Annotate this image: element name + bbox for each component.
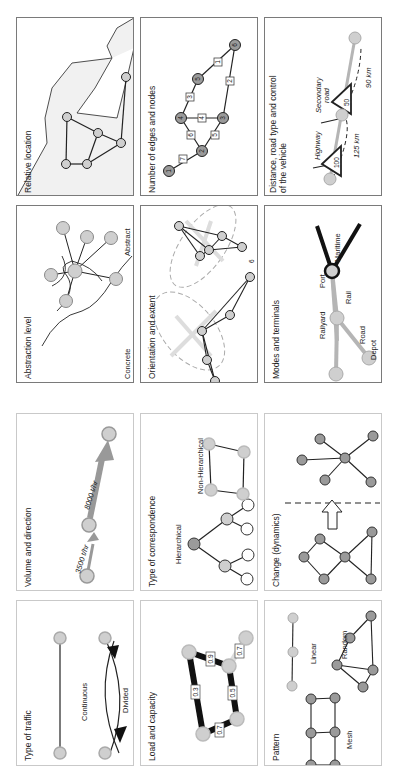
mesh-label: Mesh [345,731,354,749]
depot-label: Depot [369,339,378,360]
panel-title: Change (dynamics) [271,513,281,587]
hierarchical-label: Hierarchical [174,524,183,564]
node-label: 6 [231,43,238,47]
orientation-mark: 6 [248,259,255,263]
road-label: Road [358,326,367,344]
panel-title: Volume and direction [23,507,33,587]
change-diagram: Change (dynamics) [265,414,382,591]
random-label: Random [340,631,349,659]
edge-label: 5 [211,133,218,137]
panel-title-line1: Distance, road type and control [268,75,278,193]
panel-change-dynamics: Change (dynamics) [264,413,382,591]
highway-speed: 100 [333,157,340,168]
panel-pattern: Linear Random Mesh Pattern [264,600,382,766]
panel-title: Number of edges and nodes [147,86,157,193]
edges-nodes-diagram: 7 6 5 4 3 1 2 1 2 3 4 5 6 Number of edge… [141,18,258,196]
panel-title: Type of traffic [23,709,33,761]
secondary-speed: 50 [343,98,350,106]
panel-title-line2: of the vehicle [278,143,288,193]
node-label: 2 [198,149,205,153]
panel-number-of-edges-and-nodes: 7 6 5 4 3 1 2 1 2 3 4 5 6 Number of edge… [140,17,258,196]
pattern-diagram: Linear Random Mesh Pattern [265,601,382,766]
edge-label: 2 [226,79,233,83]
edge-label: 7 [179,157,186,161]
traffic-diagram: Continuous Divided Type of traffic [17,601,134,766]
railyard-label: Railyard [318,311,327,339]
edge-label: 4 [198,116,205,120]
panel-type-of-traffic: Continuous Divided Type of traffic [16,600,134,766]
node-label: 3 [219,116,226,120]
load-label: 0.9 [207,654,214,663]
node-label: 4 [177,116,184,120]
distance-road-diagram: 100 50 Highway Secondary road 125 km 90 … [265,18,382,196]
panel-load-and-capacity: 0.3 0.9 0.7 0.5 0.7 Load and capacity [140,600,258,766]
panel-title: Load and capacity [147,691,157,761]
load-label: 0.7 [216,725,223,734]
divided-label: Divided [121,688,130,713]
linear-label: Linear [309,643,318,664]
continuous-label: Continuous [80,683,89,721]
panel-abstraction-level: Abstract Concrete Abstraction level [16,205,134,383]
panel-title: Pattern [271,733,281,761]
highway-distance: 125 km [352,133,361,158]
edge-label: 1 [214,60,221,64]
node-label: 5 [194,77,201,81]
load-label: 0.5 [229,688,236,697]
volume-diagram: 3500 t/hr 8000 t/hr Volume and direction [17,414,134,591]
panel-volume-and-direction: 3500 t/hr 8000 t/hr Volume and direction [16,413,134,591]
maritime-label: Maritime [333,233,342,262]
correspondence-diagram: Hierarchical Non-Hierarchical Type of co… [141,414,258,591]
concrete-label: Concrete [123,349,132,379]
orientation-diagram: 6 Orientation and extent [141,206,258,383]
load-label: 0.3 [192,687,199,696]
panel-title: Type of correspondence [147,496,157,587]
edge-label: 3 [186,95,193,99]
panel-type-of-correspondence: Hierarchical Non-Hierarchical Type of co… [140,413,258,591]
highway-label: Highway [313,130,322,160]
panel-title: Abstraction level [23,317,33,379]
panel-orientation-and-extent: 6 Orientation and extent [140,205,258,383]
relative-location-diagram: Relative location [17,18,134,196]
panel-title: Modes and terminals [271,300,281,379]
load-diagram: 0.3 0.9 0.7 0.5 0.7 Load and capacity [141,601,258,766]
panel-relative-location: Relative location [16,17,134,196]
load-label: 0.7 [236,646,243,655]
panel-title: Orientation and extent [147,295,157,379]
modes-diagram: Port Maritime Rail Railyard Road Depot M… [265,206,382,383]
secondary-distance: 90 km [364,68,373,88]
panel-title: Relative location [23,130,33,193]
panel-modes-and-terminals: Port Maritime Rail Railyard Road Depot M… [264,205,382,383]
edge-label: 6 [187,133,194,137]
abstract-label: Abstract [123,228,132,256]
non-hierarchical-label: Non-Hierarchical [196,438,205,494]
port-label: Port [318,273,327,288]
abstraction-diagram: Abstract Concrete Abstraction level [17,206,134,383]
panel-distance-road-type: 100 50 Highway Secondary road 125 km 90 … [264,17,382,196]
node-label: 1 [165,169,172,173]
secondary-road-label-2: road [322,87,331,103]
rail-label: Rail [344,291,353,304]
